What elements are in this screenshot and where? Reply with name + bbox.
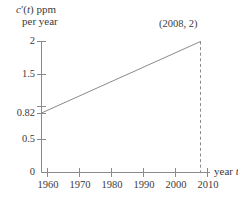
y-axis-title-units2: per year (16, 16, 58, 28)
x-axis-title-var: t (236, 165, 238, 177)
point-annotation-2008-2: (2008, 2) (159, 18, 198, 29)
x-tick-label-1970: 1970 (70, 179, 91, 190)
y-axis-title: c′(t) ppm per year (16, 4, 58, 27)
x-tick-label-1960: 1960 (38, 179, 59, 190)
x-tick-label-2010: 2010 (198, 179, 219, 190)
y-tick-label-2: 2 (10, 35, 35, 46)
y-tick-label-0point82: 0.82 (5, 107, 35, 118)
x-axis-title-text: year (214, 165, 233, 177)
x-tick-label-2000: 2000 (166, 179, 187, 190)
x-axis-title: year t (214, 166, 238, 178)
data-line-series-1 (42, 42, 201, 114)
y-tick-label-1point5: 1.5 (10, 68, 35, 79)
y-tick-label-0point5: 0.5 (10, 133, 35, 144)
y-axis-title-paren-close: ) (30, 3, 34, 15)
y-tick-label-0: 0 (10, 166, 35, 177)
x-tick-label-1980: 1980 (102, 179, 123, 190)
chart-container: c′(t) ppm per year 2 1.5 0.82 0.5 0 1960… (0, 0, 238, 200)
y-axis-title-units1: ppm (36, 3, 56, 15)
chart-plot-area (0, 0, 238, 200)
x-tick-label-1990: 1990 (134, 179, 155, 190)
